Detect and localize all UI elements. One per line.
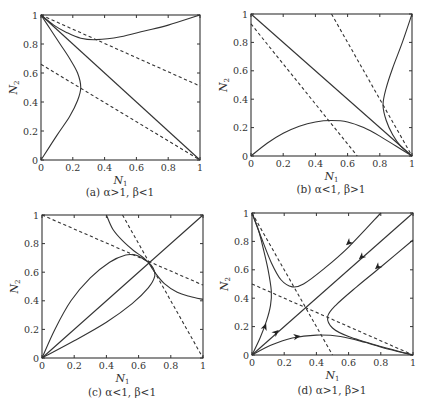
x-tick-label: 0.4 xyxy=(309,357,324,368)
y-axis-label: N2 xyxy=(7,80,21,95)
x-tick-label: 0.4 xyxy=(99,360,114,371)
x-tick-label: 0 xyxy=(38,162,44,173)
trajectory-lower-branch-line xyxy=(328,240,413,355)
x-tick-label: 0.2 xyxy=(67,360,82,371)
y-tick-label: 0.2 xyxy=(233,122,248,133)
x-tick-label: 0.4 xyxy=(308,158,323,169)
y-tick-label: 0 xyxy=(243,350,249,361)
x-tick-label: 0.8 xyxy=(373,357,388,368)
y-tick-label: 0 xyxy=(242,151,248,162)
arrowhead-icon xyxy=(271,330,278,337)
panel-c: 00.20.40.60.8100.20.40.60.81N1N2 (c) α<1… xyxy=(8,210,206,399)
x-tick-label: 1 xyxy=(409,158,415,169)
figure-canvas: 00.20.40.60.8100.20.40.60.81N1N2 (a) α>1… xyxy=(0,0,424,408)
caption-a: (a) α>1, β<1 xyxy=(86,186,155,198)
x-tick-label: 0.8 xyxy=(163,360,178,371)
y-tick-label: 0.8 xyxy=(233,37,248,48)
y-axis-label: N2 xyxy=(217,78,231,93)
panel-a: 00.20.40.60.8100.20.40.60.81N1N2 (a) α>1… xyxy=(7,10,203,199)
y-tick-label: 0.6 xyxy=(23,68,38,79)
trajectory-upper-branch-line xyxy=(252,213,381,287)
y-tick-label: 0.2 xyxy=(24,324,39,335)
nullcline-1-line xyxy=(251,24,357,156)
x-tick-label: 0 xyxy=(249,357,255,368)
x-axis-label: N1 xyxy=(324,369,339,383)
x-tick-label: 0.8 xyxy=(161,162,176,173)
y-tick-label: 0.8 xyxy=(23,39,38,50)
trajectory-bottom-line xyxy=(252,335,413,355)
x-tick-label: 0.6 xyxy=(131,360,146,371)
x-tick-label: 0.2 xyxy=(65,162,80,173)
x-tick-label: 0.6 xyxy=(341,357,356,368)
y-axis-label: N2 xyxy=(8,279,22,294)
trajectory-top-line xyxy=(41,15,200,40)
y-tick-label: 1 xyxy=(243,208,249,219)
caption-d: (d) α>1, β>1 xyxy=(297,384,366,396)
y-tick-label: 0.8 xyxy=(24,238,39,249)
x-tick-label: 1 xyxy=(410,357,416,368)
nullcline-2-line xyxy=(41,64,200,160)
trajectory-right-line xyxy=(148,262,203,299)
y-tick-label: 0.4 xyxy=(23,97,38,108)
y-tick-label: 0 xyxy=(32,155,38,166)
y-tick-label: 0.2 xyxy=(23,126,38,137)
y-tick-label: 0.6 xyxy=(233,65,248,76)
x-tick-label: 0.4 xyxy=(97,162,112,173)
nullcline-2-line xyxy=(252,284,413,355)
nullcline-2-line xyxy=(332,14,413,156)
x-tick-label: 0.2 xyxy=(276,158,291,169)
x-tick-label: 0.6 xyxy=(340,158,355,169)
solid-diagonal-line xyxy=(42,215,203,358)
x-tick-label: 0.6 xyxy=(129,162,144,173)
y-tick-label: 0.4 xyxy=(233,94,248,105)
trajectory-left-line xyxy=(252,213,271,355)
x-axis-label: N1 xyxy=(114,372,129,386)
x-tick-label: 0 xyxy=(39,360,45,371)
y-tick-label: 0.6 xyxy=(234,264,249,275)
panel-b: 00.20.40.60.8100.20.40.60.81N1N2 (b) α<1… xyxy=(217,9,415,196)
y-tick-label: 1 xyxy=(33,210,39,221)
y-tick-label: 0.6 xyxy=(24,267,39,278)
solid-diagonal-line xyxy=(251,14,412,156)
y-tick-label: 0.4 xyxy=(234,293,249,304)
x-tick-label: 1 xyxy=(200,360,206,371)
caption-b: (b) α<1, β>1 xyxy=(296,183,365,195)
x-tick-label: 0.8 xyxy=(372,158,387,169)
y-tick-label: 0.4 xyxy=(24,295,39,306)
nullcline-1-line xyxy=(252,213,333,355)
trajectory-upper-lobe-line xyxy=(42,254,148,358)
x-axis-label: N1 xyxy=(323,170,338,184)
nullcline-2-line xyxy=(123,215,204,358)
x-tick-label: 0.2 xyxy=(277,357,292,368)
y-tick-label: 0 xyxy=(33,353,39,364)
y-tick-label: 1 xyxy=(32,10,38,21)
y-tick-label: 0.8 xyxy=(234,236,249,247)
caption-c: (c) α<1, β<1 xyxy=(88,386,156,398)
y-tick-label: 0.2 xyxy=(234,321,249,332)
nullcline-1-line xyxy=(42,215,203,285)
x-tick-label: 1 xyxy=(197,162,203,173)
y-axis-label: N2 xyxy=(218,277,232,292)
x-tick-label: 0 xyxy=(248,158,254,169)
y-tick-label: 1 xyxy=(242,9,248,20)
panel-d: 00.20.40.60.8100.20.40.60.81N1N2 (d) α>1… xyxy=(218,208,416,397)
